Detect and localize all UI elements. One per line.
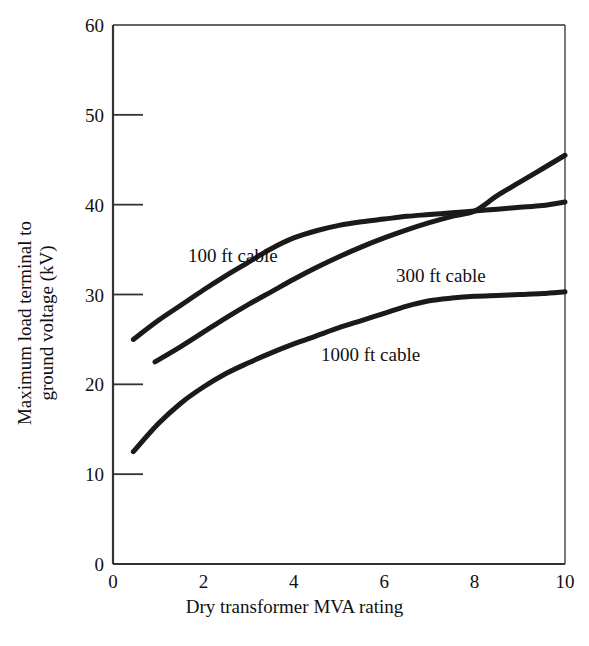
y-tick-label: 60 bbox=[60, 16, 104, 35]
series-line-100-ft-cable bbox=[133, 202, 565, 339]
y-tick-label: 40 bbox=[60, 195, 104, 214]
series-lines bbox=[133, 155, 565, 451]
x-tick-label: 2 bbox=[199, 572, 209, 591]
series-label-1000ft: 1000 ft cable bbox=[321, 344, 420, 366]
series-line-1000-ft-cable bbox=[133, 292, 565, 452]
y-tick-label: 0 bbox=[60, 555, 104, 574]
x-tick-label: 10 bbox=[556, 572, 575, 591]
x-tick-label: 0 bbox=[108, 572, 118, 591]
y-tick-label: 20 bbox=[60, 375, 104, 394]
x-tick-label: 8 bbox=[470, 572, 480, 591]
y-axis-title-line2: ground voltage (kV) bbox=[36, 245, 58, 400]
y-tick-label: 30 bbox=[60, 285, 104, 304]
plot-area bbox=[0, 0, 589, 646]
y-axis-title-line1: Maximum load terminal to bbox=[14, 221, 36, 425]
x-axis-title: Dry transformer MVA rating bbox=[0, 596, 589, 618]
chart-figure: 0102030405060 0246810 Maximum load termi… bbox=[0, 0, 589, 646]
x-tick-label: 4 bbox=[289, 572, 299, 591]
y-tick-label: 50 bbox=[60, 105, 104, 124]
series-label-100ft: 100 ft cable bbox=[188, 245, 278, 267]
y-axis-title: Maximum load terminal to ground voltage … bbox=[8, 0, 64, 646]
y-tick-marks bbox=[113, 115, 143, 474]
y-tick-label: 10 bbox=[60, 465, 104, 484]
series-label-300ft: 300 ft cable bbox=[396, 265, 486, 287]
x-tick-label: 6 bbox=[379, 572, 389, 591]
